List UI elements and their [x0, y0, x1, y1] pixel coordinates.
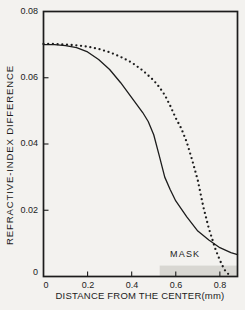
x-tick-label-0.4: 0.4 — [117, 280, 147, 290]
plot-area — [0, 0, 245, 310]
mask-annotation-label: MASK — [170, 249, 200, 259]
y-tick-label-0: 0 — [6, 267, 38, 277]
x-tick-label-0.2: 0.2 — [73, 280, 103, 290]
x-tick-label-0.6: 0.6 — [161, 280, 191, 290]
y-tick-label-0.08: 0.08 — [6, 6, 38, 16]
figure: 0.08 0.06 0.04 0.02 0 0 0.2 0.4 0.6 0.8 … — [0, 0, 245, 310]
x-tick-label-0.8: 0.8 — [205, 280, 235, 290]
x-axis-title: DISTANCE FROM THE CENTER(mm) — [40, 290, 240, 301]
y-axis-title: REFRACTIVE-INDEX DIFFERENCE — [4, 65, 15, 245]
x-tick-label-0: 0 — [31, 280, 61, 290]
